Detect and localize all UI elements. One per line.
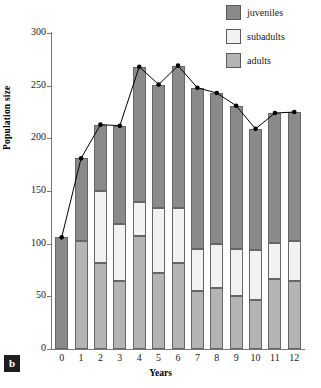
x-tick-label: 9 bbox=[226, 352, 246, 363]
y-tick-label: 150 bbox=[18, 184, 46, 195]
x-axis-label: Years bbox=[0, 368, 321, 378]
line-data-point bbox=[214, 91, 219, 96]
legend-swatch-juveniles bbox=[226, 5, 241, 20]
line-data-point bbox=[234, 103, 239, 108]
line-data-point bbox=[156, 82, 161, 87]
legend-item-juveniles: juveniles bbox=[226, 2, 321, 22]
x-tick-label: 0 bbox=[52, 352, 72, 363]
line-data-point bbox=[137, 64, 142, 69]
line-data-point bbox=[118, 123, 123, 128]
line-data-point bbox=[292, 110, 297, 115]
y-tick-label: 250 bbox=[18, 79, 46, 90]
y-tick-label: 50 bbox=[18, 289, 46, 300]
x-tick-label: 12 bbox=[284, 352, 304, 363]
line-data-point bbox=[59, 235, 64, 240]
x-tick-label: 3 bbox=[110, 352, 130, 363]
y-tick-mark bbox=[47, 349, 52, 350]
y-tick-label: 100 bbox=[18, 237, 46, 248]
total-line-overlay bbox=[52, 33, 304, 349]
x-tick-label: 11 bbox=[265, 352, 285, 363]
x-tick-label: 10 bbox=[246, 352, 266, 363]
line-data-point bbox=[98, 122, 103, 127]
x-tick-label: 1 bbox=[71, 352, 91, 363]
x-axis-line bbox=[51, 349, 305, 350]
line-data-point bbox=[176, 63, 181, 68]
y-tick-label: 0 bbox=[18, 342, 46, 353]
x-tick-label: 8 bbox=[207, 352, 227, 363]
total-population-line bbox=[62, 66, 295, 238]
panel-letter: b bbox=[4, 355, 20, 372]
x-tick-label: 4 bbox=[129, 352, 149, 363]
legend-label-juveniles: juveniles bbox=[247, 7, 283, 18]
x-tick-label: 7 bbox=[187, 352, 207, 363]
y-tick-label: 300 bbox=[18, 26, 46, 37]
y-tick-label: 200 bbox=[18, 131, 46, 142]
x-tick-label: 6 bbox=[168, 352, 188, 363]
line-data-point bbox=[79, 156, 84, 161]
x-tick-label: 5 bbox=[149, 352, 169, 363]
line-data-point bbox=[253, 127, 258, 132]
x-tick-label: 2 bbox=[90, 352, 110, 363]
y-axis-label: Population size bbox=[2, 86, 12, 151]
line-data-point bbox=[273, 111, 278, 116]
figure-panel-b: juveniles subadults adults 0501001502002… bbox=[0, 0, 321, 388]
plot-area bbox=[52, 33, 304, 349]
line-data-point bbox=[195, 85, 200, 90]
